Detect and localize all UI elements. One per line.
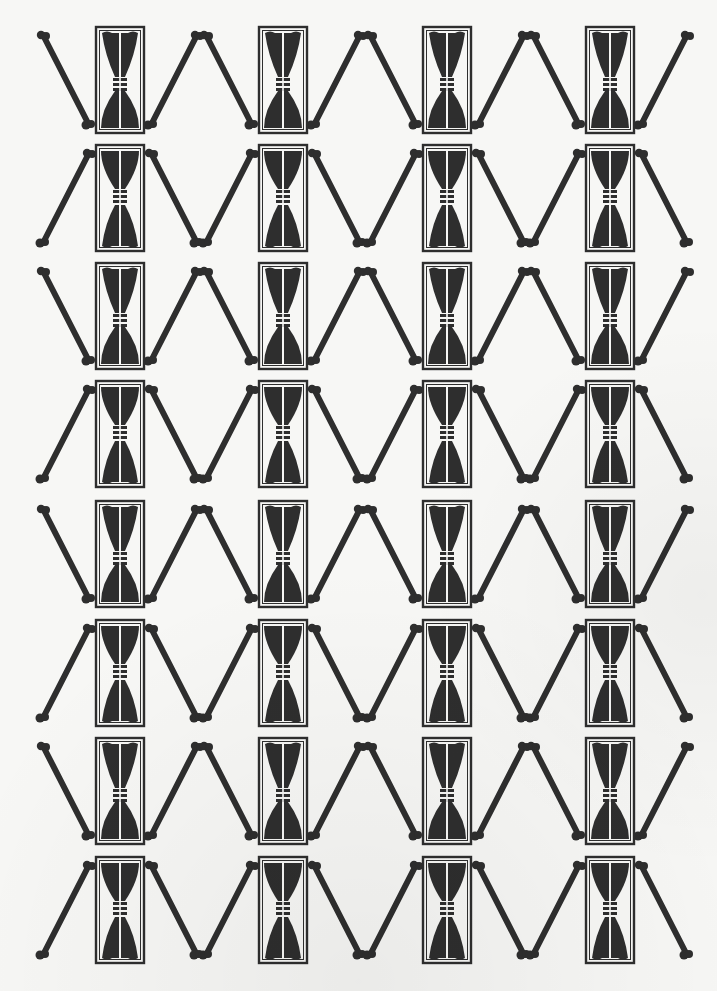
hourglass-bones-motif bbox=[35, 499, 205, 611]
hourglass-bones-motif bbox=[525, 261, 695, 373]
hourglass-bones-motif bbox=[362, 618, 532, 730]
hourglass-bones-motif bbox=[525, 143, 695, 255]
hourglass-bones-motif bbox=[35, 143, 205, 255]
hourglass-bones-motif bbox=[362, 499, 532, 611]
hourglass-bones-motif bbox=[525, 499, 695, 611]
hourglass-bones-motif bbox=[35, 25, 205, 137]
hourglass-bones-motif bbox=[198, 379, 368, 491]
hourglass-bones-motif bbox=[198, 25, 368, 137]
hourglass-bones-motif bbox=[362, 379, 532, 491]
hourglass-bones-motif bbox=[35, 855, 205, 967]
hourglass-bones-motif bbox=[198, 143, 368, 255]
hourglass-bones-motif bbox=[525, 379, 695, 491]
hourglass-bones-motif bbox=[525, 618, 695, 730]
hourglass-bones-motif bbox=[525, 855, 695, 967]
hourglass-bones-motif bbox=[35, 261, 205, 373]
hourglass-bones-motif bbox=[362, 736, 532, 848]
hourglass-bones-motif bbox=[35, 379, 205, 491]
hourglass-bones-motif bbox=[525, 736, 695, 848]
hourglass-bones-motif bbox=[198, 855, 368, 967]
hourglass-bones-motif bbox=[35, 618, 205, 730]
hourglass-bones-motif bbox=[362, 25, 532, 137]
hourglass-bones-motif bbox=[198, 736, 368, 848]
hourglass-bones-motif bbox=[198, 499, 368, 611]
hourglass-bones-motif bbox=[198, 261, 368, 373]
hourglass-bones-motif bbox=[362, 143, 532, 255]
hourglass-bones-motif bbox=[362, 855, 532, 967]
hourglass-bones-motif bbox=[525, 25, 695, 137]
pattern-canvas bbox=[0, 0, 717, 991]
hourglass-bones-motif bbox=[362, 261, 532, 373]
hourglass-bones-motif bbox=[35, 736, 205, 848]
hourglass-bones-motif bbox=[198, 618, 368, 730]
